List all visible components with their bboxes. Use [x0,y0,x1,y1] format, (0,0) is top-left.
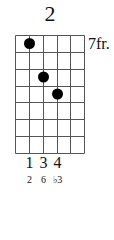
interval-label: ♭3 [51,174,65,185]
finger-number: 4 [51,154,65,172]
finger-number: 1 [23,154,37,172]
finger-dot [24,38,35,49]
interval-label: 2 [23,174,37,185]
finger-number: 3 [37,154,51,172]
finger-dot [38,72,49,83]
finger-dot [52,89,63,100]
interval-label: 6 [37,174,51,185]
